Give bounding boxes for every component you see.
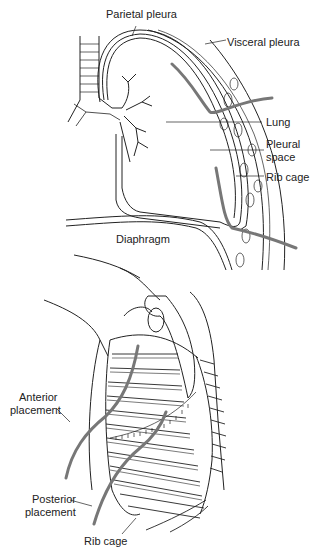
rib-cage-anterior — [106, 335, 208, 532]
label-parietal-pleura: Parietal pleura — [106, 8, 177, 20]
trachea — [68, 36, 122, 126]
leader-lines-top — [132, 26, 264, 176]
illustration — [0, 0, 313, 554]
label-visceral-pleura: Visceral pleura — [227, 36, 300, 48]
label-rib-cage-bottom: Rib cage — [84, 535, 127, 547]
label-anterior-line2: placement — [10, 404, 61, 416]
chest-tube-diagram: Parietal pleura Visceral pleura Lung Ple… — [0, 0, 313, 554]
label-pleural-space-line1: Pleural — [266, 138, 300, 150]
chest-tubes-bottom — [66, 346, 166, 524]
label-lung: Lung — [266, 116, 290, 128]
label-anterior-line1: Anterior — [19, 391, 58, 403]
label-rib-cage-top: Rib cage — [266, 171, 309, 183]
spine-ribs-right — [196, 356, 226, 514]
label-posterior-line2: placement — [25, 506, 76, 518]
label-pleural-space-line2: space — [266, 151, 295, 163]
bronchial-tree — [120, 74, 152, 162]
sternum — [124, 296, 195, 398]
diaphragm — [66, 216, 232, 278]
label-posterior-line1: Posterior — [32, 493, 76, 505]
body-outline — [44, 268, 224, 490]
label-diaphragm: Diaphragm — [116, 233, 170, 245]
